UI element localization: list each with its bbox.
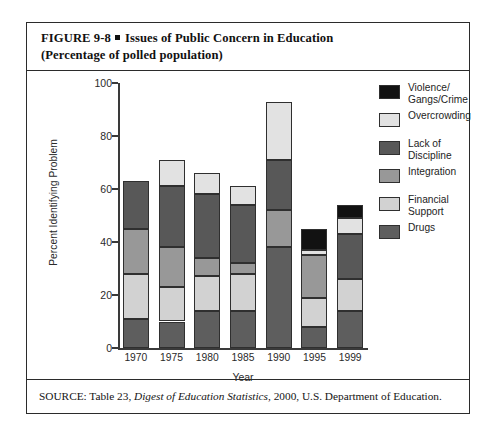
bar-segment[interactable] xyxy=(337,234,363,279)
figure-source-bar: SOURCE: Table 23, Digest of Education St… xyxy=(27,379,469,413)
bar-segment[interactable] xyxy=(194,276,220,310)
bar-segment[interactable] xyxy=(159,160,185,187)
x-axis-tick-label: 1990 xyxy=(259,352,299,363)
bar-stack[interactable] xyxy=(159,71,185,348)
bar-segment[interactable] xyxy=(159,186,185,247)
source-suffix: , 2000, U.S. Department of Education. xyxy=(268,390,442,402)
x-axis-tick-label: 1975 xyxy=(152,352,192,363)
legend-item[interactable]: Drugs xyxy=(379,223,475,251)
legend-item[interactable]: Violence/ Gangs/Crime xyxy=(379,83,475,111)
bar-segment[interactable] xyxy=(230,186,256,205)
figure-title-text: Issues of Public Concern in Education xyxy=(125,31,333,45)
legend-swatch xyxy=(379,225,400,239)
figure-number: FIGURE 9-8 xyxy=(41,31,111,45)
bar-segment[interactable] xyxy=(266,160,292,210)
x-axis-tick-label: 1980 xyxy=(187,352,227,363)
bar-segment[interactable] xyxy=(159,322,185,349)
figure-title-line-2: (Percentage of polled population) xyxy=(41,47,469,64)
bar-stack[interactable] xyxy=(266,71,292,348)
legend-swatch xyxy=(379,169,400,183)
legend-label: Violence/ Gangs/Crime xyxy=(408,82,468,105)
legend-label: Lack of Discipline xyxy=(408,138,452,161)
bar-segment[interactable] xyxy=(159,287,185,321)
figure-title-line-1: FIGURE 9-8Issues of Public Concern in Ed… xyxy=(41,30,469,47)
chart-legend: Violence/ Gangs/CrimeOvercrowdingLack of… xyxy=(379,83,475,251)
legend-label: Overcrowding xyxy=(408,110,471,122)
legend-swatch xyxy=(379,113,400,127)
legend-swatch xyxy=(379,141,400,155)
x-axis-tick-label: 1995 xyxy=(294,352,334,363)
legend-swatch xyxy=(379,197,400,211)
bar-segment[interactable] xyxy=(337,311,363,348)
bar-segment[interactable] xyxy=(301,229,327,250)
bar-segment[interactable] xyxy=(230,311,256,348)
source-note: SOURCE: Table 23, Digest of Education St… xyxy=(39,390,469,402)
bar-segment[interactable] xyxy=(266,247,292,348)
bar-segment[interactable] xyxy=(230,205,256,263)
figure-box: FIGURE 9-8Issues of Public Concern in Ed… xyxy=(26,22,470,414)
x-axis-tick-label: 1985 xyxy=(223,352,263,363)
bar-segment[interactable] xyxy=(194,311,220,348)
bar-stack[interactable] xyxy=(230,71,256,348)
bar-stack[interactable] xyxy=(194,71,220,348)
square-bullet-icon xyxy=(115,35,120,40)
legend-swatch xyxy=(379,85,400,99)
bar-segment[interactable] xyxy=(230,274,256,311)
source-prefix: SOURCE: Table 23, xyxy=(39,390,134,402)
figure-title-bar: FIGURE 9-8Issues of Public Concern in Ed… xyxy=(27,23,469,71)
legend-item[interactable]: Overcrowding xyxy=(379,111,475,139)
legend-item[interactable]: Lack of Discipline xyxy=(379,139,475,167)
bar-segment[interactable] xyxy=(266,102,292,160)
bar-segment[interactable] xyxy=(230,263,256,274)
bar-stack[interactable] xyxy=(337,71,363,348)
bar-segment[interactable] xyxy=(337,279,363,311)
legend-label: Financial Support xyxy=(408,194,449,217)
bar-segment[interactable] xyxy=(337,218,363,234)
x-axis-tick-label: 1970 xyxy=(116,352,156,363)
bar-segment[interactable] xyxy=(301,327,327,348)
bar-segment[interactable] xyxy=(194,194,220,258)
bar-segment[interactable] xyxy=(266,210,292,247)
x-axis-tick-label: 1999 xyxy=(330,352,370,363)
bar-segment[interactable] xyxy=(194,173,220,194)
bar-segment[interactable] xyxy=(301,255,327,297)
bar-segment[interactable] xyxy=(337,205,363,218)
bar-stack[interactable] xyxy=(123,71,149,348)
bar-segment[interactable] xyxy=(194,258,220,277)
plot-region: 020406080100 Percent Identifying Problem… xyxy=(27,71,468,379)
bar-segment[interactable] xyxy=(123,229,149,274)
bar-segment[interactable] xyxy=(123,274,149,319)
bar-segment[interactable] xyxy=(123,181,149,229)
source-publication-title: Digest of Education Statistics xyxy=(134,390,268,402)
bar-segment[interactable] xyxy=(301,250,327,255)
legend-item[interactable]: Integration xyxy=(379,167,475,195)
bar-segment[interactable] xyxy=(301,298,327,327)
bar-segment[interactable] xyxy=(123,319,149,348)
legend-item[interactable]: Financial Support xyxy=(379,195,475,223)
bar-stack[interactable] xyxy=(301,71,327,348)
legend-label: Drugs xyxy=(408,222,435,234)
bar-segment[interactable] xyxy=(159,247,185,287)
legend-label: Integration xyxy=(408,166,456,178)
